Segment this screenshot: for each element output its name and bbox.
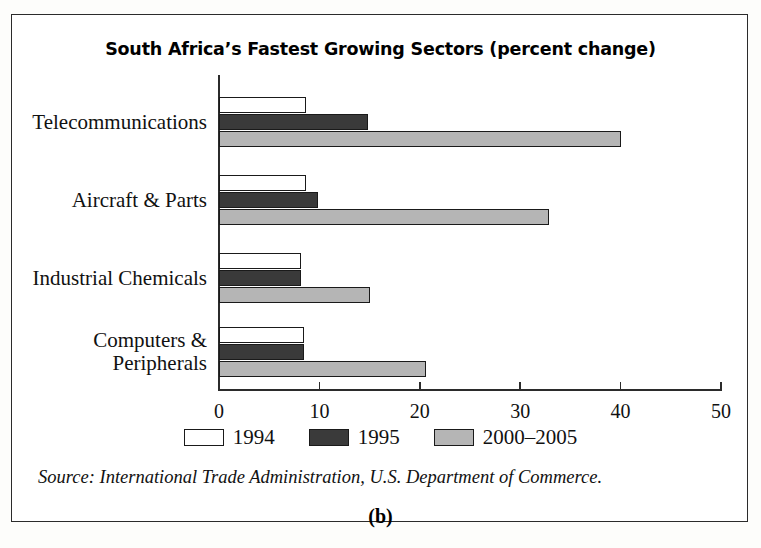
x-tick-label: 40 — [611, 400, 631, 423]
bar-1994 — [219, 97, 306, 113]
bar-1994 — [219, 327, 304, 343]
bar-2000-2005 — [219, 361, 426, 377]
x-tick — [419, 382, 421, 391]
bar-1994 — [219, 175, 306, 191]
legend-swatch — [434, 429, 474, 446]
x-tick — [218, 382, 220, 391]
bar-group — [219, 175, 721, 225]
bar-2000-2005 — [219, 131, 621, 147]
bar-1995 — [219, 114, 368, 130]
x-tick — [319, 382, 321, 391]
x-tick — [519, 382, 521, 391]
legend-item: 2000–2005 — [434, 425, 578, 450]
bar-2000-2005 — [219, 209, 549, 225]
x-tick-label: 30 — [510, 400, 530, 423]
legend-label: 1995 — [358, 425, 400, 450]
chart-title: South Africa’s Fastest Growing Sectors (… — [12, 39, 749, 59]
chart-legend: 199419952000–2005 — [12, 425, 749, 450]
figure-panel: South Africa’s Fastest Growing Sectors (… — [0, 0, 761, 548]
x-tick-label: 0 — [214, 400, 224, 423]
chart-frame: South Africa’s Fastest Growing Sectors (… — [11, 14, 748, 522]
legend-swatch — [309, 429, 349, 446]
x-tick-label: 10 — [309, 400, 329, 423]
bar-group — [219, 97, 721, 147]
bar-2000-2005 — [219, 287, 370, 303]
category-label: Computers & Peripherals — [12, 329, 219, 375]
legend-item: 1995 — [309, 425, 400, 450]
x-tick-label: 20 — [410, 400, 430, 423]
category-label: Telecommunications — [12, 111, 219, 134]
bar-1995 — [219, 192, 318, 208]
x-tick-label: 50 — [711, 400, 731, 423]
legend-label: 2000–2005 — [483, 425, 578, 450]
plot-area: 01020304050 — [219, 75, 721, 391]
category-label: Industrial Chemicals — [12, 267, 219, 290]
x-tick — [720, 382, 722, 391]
legend-item: 1994 — [184, 425, 275, 450]
legend-label: 1994 — [233, 425, 275, 450]
category-label: Aircraft & Parts — [12, 189, 219, 212]
x-tick — [620, 382, 622, 391]
bar-group — [219, 327, 721, 377]
bar-group — [219, 253, 721, 303]
source-note: Source: International Trade Administrati… — [38, 467, 602, 488]
panel-label: (b) — [0, 505, 761, 528]
legend-swatch — [184, 429, 224, 446]
bar-1995 — [219, 344, 304, 360]
x-axis-line — [218, 389, 721, 391]
bar-1994 — [219, 253, 301, 269]
bar-1995 — [219, 270, 301, 286]
